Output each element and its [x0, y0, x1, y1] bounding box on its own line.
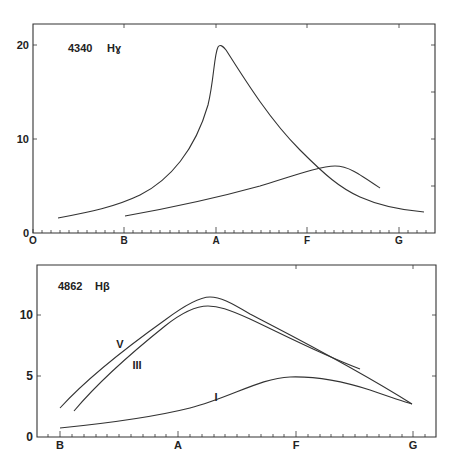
bottom-xtick-b: B — [56, 439, 64, 451]
top-plot-frame — [33, 24, 435, 233]
bottom-ytick-10: 10 — [20, 308, 34, 322]
top-ytick-20: 20 — [17, 39, 29, 51]
top-xtick-b: B — [120, 235, 127, 246]
top-curve-peaked — [58, 46, 424, 218]
bottom-labels: 4862 Hβ 0 5 10 B A F G V III I — [20, 280, 418, 451]
top-ytick-0: 0 — [23, 227, 29, 239]
bottom-ytick-5: 5 — [26, 369, 33, 383]
bottom-ytick-0: 0 — [26, 430, 33, 444]
top-xtick-a: A — [212, 235, 219, 246]
bottom-xtick-f: F — [293, 439, 300, 451]
series-label-i: I — [214, 391, 217, 403]
bottom-xtick-a: A — [174, 439, 182, 451]
series-label-iii: III — [132, 359, 141, 371]
top-plot — [33, 24, 435, 233]
bottom-curve-i — [60, 377, 412, 428]
series-label-v: V — [116, 338, 124, 350]
top-xtick-f: F — [304, 235, 310, 246]
top-curve-broad — [125, 166, 380, 216]
figure: 4340 Hɣ 0 10 20 O B A F G 4862 Hβ 0 5 10… — [0, 0, 457, 466]
bottom-title-line: Hβ — [95, 280, 110, 292]
top-xtick-g: G — [395, 235, 403, 246]
bottom-title-number: 4862 — [58, 280, 82, 292]
bottom-xtick-g: G — [409, 439, 418, 451]
bottom-curve-v — [60, 297, 412, 408]
top-xtick-o: O — [29, 235, 37, 246]
top-title-number: 4340 — [68, 42, 92, 54]
top-ytick-10: 10 — [17, 133, 29, 145]
top-title-line: Hɣ — [107, 42, 122, 54]
top-x-ticks — [33, 24, 435, 233]
